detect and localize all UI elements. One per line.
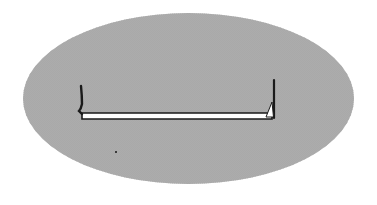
bracket-left-stroke — [79, 86, 82, 114]
bracket-drawing — [0, 0, 377, 205]
speck — [115, 151, 117, 153]
bracket-bar — [82, 113, 272, 119]
bracket-right-triangle — [266, 102, 274, 117]
